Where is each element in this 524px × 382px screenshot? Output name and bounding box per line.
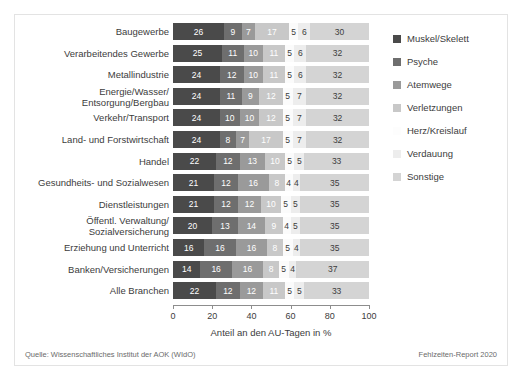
chart-figure: Baugewerbe2697175630Verarbeitendes Gewer… bbox=[14, 14, 508, 366]
legend-label: Atemwege bbox=[407, 79, 452, 90]
legend-item[interactable]: Verletzungen bbox=[393, 96, 505, 119]
x-tick-mark bbox=[291, 305, 292, 309]
legend-label: Muskel/Skelett bbox=[407, 33, 469, 44]
legend: Muskel/SkelettPsycheAtemwegeVerletzungen… bbox=[393, 27, 505, 188]
legend-label: Herz/Kreislauf bbox=[407, 125, 467, 136]
legend-swatch-icon bbox=[393, 173, 401, 181]
legend-item[interactable]: Herz/Kreislauf bbox=[393, 119, 505, 142]
legend-label: Psyche bbox=[407, 56, 438, 67]
x-axis-title: Anteil an den AU-Tagen in % bbox=[173, 327, 369, 338]
legend-item[interactable]: Muskel/Skelett bbox=[393, 27, 505, 50]
x-tick-mark bbox=[330, 305, 331, 309]
legend-swatch-icon bbox=[393, 58, 401, 66]
legend-swatch-icon bbox=[393, 150, 401, 158]
footer: Quelle: Wissenschaftliches Institut der … bbox=[25, 350, 497, 359]
legend-swatch-icon bbox=[393, 127, 401, 135]
legend-label: Verdauung bbox=[407, 148, 453, 159]
x-tick-label: 40 bbox=[246, 311, 256, 321]
legend-item[interactable]: Sonstige bbox=[393, 165, 505, 188]
x-tick-label: 80 bbox=[325, 311, 335, 321]
x-tick-label: 0 bbox=[170, 311, 175, 321]
legend-item[interactable]: Psyche bbox=[393, 50, 505, 73]
legend-label: Sonstige bbox=[407, 171, 444, 182]
report-note: Fehlzeiten-Report 2020 bbox=[419, 350, 497, 359]
legend-swatch-icon bbox=[393, 35, 401, 43]
legend-label: Verletzungen bbox=[407, 102, 462, 113]
x-tick-mark bbox=[251, 305, 252, 309]
x-tick-mark bbox=[369, 305, 370, 309]
x-tick-mark bbox=[173, 305, 174, 309]
legend-swatch-icon bbox=[393, 81, 401, 89]
x-tick-mark bbox=[212, 305, 213, 309]
x-axis-line bbox=[173, 305, 369, 306]
x-tick-label: 20 bbox=[207, 311, 217, 321]
legend-swatch-icon bbox=[393, 104, 401, 112]
legend-item[interactable]: Verdauung bbox=[393, 142, 505, 165]
legend-item[interactable]: Atemwege bbox=[393, 73, 505, 96]
x-tick-label: 100 bbox=[361, 311, 376, 321]
x-tick-label: 60 bbox=[286, 311, 296, 321]
source-note: Quelle: Wissenschaftliches Institut der … bbox=[25, 350, 195, 359]
